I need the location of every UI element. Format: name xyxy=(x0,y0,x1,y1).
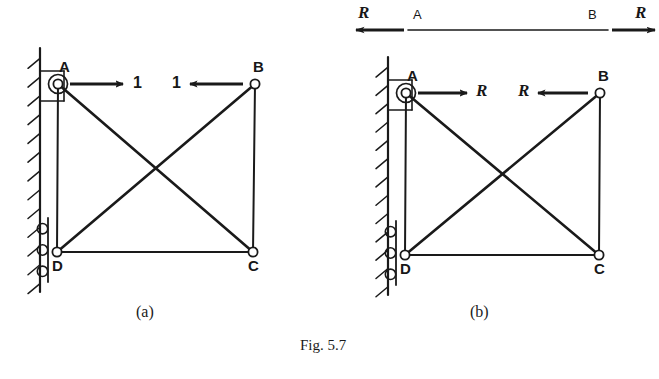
truss-member-BC xyxy=(599,93,600,255)
wall-hatch-tick xyxy=(28,96,40,106)
free-body-force-label-left: R xyxy=(358,4,369,21)
free-body-point-label-a: A xyxy=(413,8,422,21)
sub-caption-a: (a) xyxy=(136,303,154,321)
wall-hatch-tick xyxy=(28,133,40,143)
node-label-A-panel-b: A xyxy=(407,68,418,83)
node-label-C-panel-b: C xyxy=(594,261,605,276)
panels-layer xyxy=(28,30,655,297)
figure-canvas xyxy=(0,0,659,379)
node-label-D-panel-b: D xyxy=(400,261,411,276)
wall-a xyxy=(28,48,40,294)
node-label-B-panel-a: B xyxy=(253,59,264,74)
wall-hatch-tick xyxy=(28,171,40,181)
wall-hatch-tick xyxy=(376,287,388,297)
wall-b xyxy=(376,57,388,297)
wall-hatch-tick xyxy=(376,67,388,77)
roller-circle xyxy=(385,248,395,258)
wall-hatch-tick xyxy=(28,190,40,200)
free-body-force-label-right: R xyxy=(635,4,646,21)
wall-hatch-tick xyxy=(376,195,388,205)
wall-hatch-tick xyxy=(376,104,388,114)
force-label-B-panel-a: 1 xyxy=(172,75,181,91)
wall-hatch-tick xyxy=(376,214,388,224)
wall-hatch-tick xyxy=(376,177,388,187)
wall-hatch-tick xyxy=(28,152,40,162)
truss-node-D xyxy=(400,250,409,259)
node-label-B-panel-b: B xyxy=(598,68,609,83)
truss-members-b xyxy=(405,93,600,255)
sub-caption-b: (b) xyxy=(470,303,489,321)
roller-circle xyxy=(385,269,395,279)
wall-hatch-tick xyxy=(376,122,388,132)
truss-member-BC xyxy=(253,84,255,252)
wall-hatch-tick xyxy=(28,58,40,68)
wall-hatch-tick xyxy=(376,85,388,95)
force-label-A-panel-b: R xyxy=(476,82,487,99)
wall-hatch-tick xyxy=(376,159,388,169)
truss-node-A xyxy=(53,79,62,88)
wall-hatch-tick xyxy=(28,115,40,125)
free-body-point-label-b: B xyxy=(588,8,597,21)
truss-node-C xyxy=(248,247,257,256)
truss-members-a xyxy=(57,84,255,252)
wall-hatch-tick xyxy=(376,140,388,150)
roller-circle xyxy=(37,245,47,255)
truss-member-AD xyxy=(57,84,58,252)
truss-panel-b xyxy=(356,30,655,297)
truss-member-AD xyxy=(405,93,406,255)
node-label-C-panel-a: C xyxy=(248,258,259,273)
wall-hatch-tick xyxy=(28,77,40,87)
figure-caption: Fig. 5.7 xyxy=(300,337,346,354)
roller-circle xyxy=(385,226,395,236)
truss-node-A xyxy=(401,88,410,97)
truss-node-C xyxy=(594,250,603,259)
truss-node-B xyxy=(595,88,604,97)
force-label-B-panel-b: R xyxy=(518,82,529,99)
node-label-A-panel-a: A xyxy=(59,59,70,74)
wall-hatch-tick xyxy=(28,284,40,294)
force-label-A-panel-a: 1 xyxy=(133,75,142,91)
node-label-D-panel-a: D xyxy=(52,258,63,273)
truss-node-D xyxy=(52,247,61,256)
roller-circle xyxy=(37,266,47,276)
wall-hatch-tick xyxy=(28,208,40,218)
truss-node-B xyxy=(250,79,259,88)
